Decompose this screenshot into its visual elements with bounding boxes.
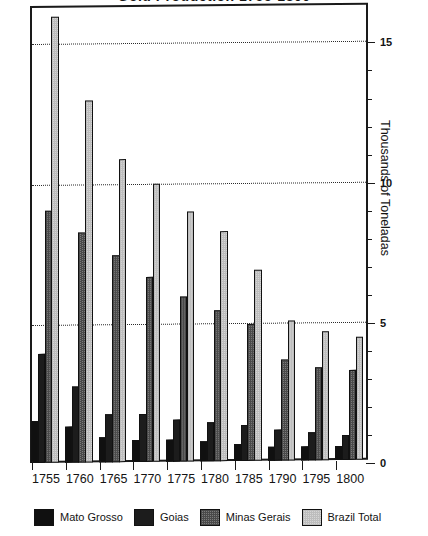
chart-legend: Mato GrossoGoiasMinas GeraisBrazil Total — [34, 505, 414, 529]
bar-group-1795 — [301, 3, 335, 460]
bar-1800-mato-grosso — [335, 446, 342, 460]
legend-label-mato: Mato Grosso — [60, 511, 123, 523]
legend-item-goias: Goias — [134, 509, 189, 526]
bar-1775-brazil-total — [187, 212, 194, 462]
bar-1755-mato-grosso — [31, 421, 38, 463]
bar-1755-minas-gerais — [45, 210, 52, 462]
y-tick-minor-6 — [366, 295, 372, 296]
bar-1795-minas-gerais — [315, 368, 322, 461]
bar-1790-mato-grosso — [268, 447, 275, 461]
y-tick-label-5: 5 — [380, 317, 386, 329]
y-tick-minor-9 — [366, 211, 372, 212]
bar-1785-minas-gerais — [247, 323, 254, 460]
bar-1765-goias — [105, 415, 112, 463]
bar-1760-goias — [72, 387, 79, 463]
y-tick-minor-1 — [366, 435, 372, 436]
y-tick-15 — [366, 42, 375, 43]
bar-1795-goias — [308, 432, 315, 460]
bar-1800-brazil-total — [356, 336, 363, 459]
y-tick-minor-13 — [366, 99, 372, 100]
legend-swatch-mato-icon — [34, 509, 54, 526]
x-tick-label-1755: 1755 — [32, 472, 60, 486]
bar-1775-goias — [173, 420, 180, 462]
bar-1785-goias — [241, 424, 248, 461]
legend-swatch-brazil-icon — [302, 509, 322, 526]
bar-1780-mato-grosso — [200, 442, 207, 462]
bar-1785-mato-grosso — [234, 444, 241, 461]
bar-group-1770 — [132, 5, 166, 462]
x-tick-label-1800: 1800 — [336, 472, 364, 486]
y-tick-minor-12 — [366, 127, 372, 128]
bar-group-1780 — [200, 4, 234, 461]
bar-1770-minas-gerais — [146, 277, 153, 462]
x-tick-1770 — [133, 461, 134, 470]
bar-group-1800 — [335, 3, 369, 460]
bar-1765-minas-gerais — [112, 255, 119, 463]
x-tick-label-1795: 1795 — [302, 472, 330, 486]
bar-1790-brazil-total — [288, 320, 295, 460]
bar-1755-goias — [38, 354, 45, 463]
chart-container: Gold Production 1755-1800 051015 Thousan… — [0, 0, 428, 536]
x-tick-label-1785: 1785 — [235, 472, 263, 486]
y-tick-minor-3 — [366, 379, 372, 380]
x-tick-label-1790: 1790 — [269, 472, 297, 486]
x-tick-1795 — [302, 461, 303, 470]
x-tick-1785 — [235, 461, 236, 470]
x-tick-label-1760: 1760 — [66, 472, 94, 486]
bar-group-1760 — [65, 5, 99, 462]
x-tick-1780 — [201, 461, 202, 470]
bar-1800-goias — [342, 435, 349, 460]
legend-item-brazil: Brazil Total — [302, 509, 382, 526]
bar-1780-minas-gerais — [214, 310, 221, 461]
x-tick-label-1775: 1775 — [167, 472, 195, 486]
x-axis: 1755176017651770177517801785179017951800 — [30, 461, 368, 495]
x-tick-1755 — [32, 461, 33, 470]
bar-group-1790 — [268, 3, 302, 460]
legend-swatch-goias-icon — [134, 509, 154, 526]
bar-1755-brazil-total — [51, 17, 58, 463]
bar-group-1755 — [31, 6, 65, 463]
bar-1790-minas-gerais — [281, 360, 288, 461]
y-tick-minor-2 — [366, 407, 372, 408]
bar-1765-brazil-total — [119, 159, 126, 462]
y-tick-minor-7 — [366, 267, 372, 268]
y-axis: 051015 — [366, 4, 428, 466]
bar-1795-brazil-total — [322, 331, 329, 460]
bar-group-1765 — [99, 5, 133, 462]
bar-1770-mato-grosso — [132, 440, 139, 462]
bar-1800-minas-gerais — [349, 370, 356, 460]
y-tick-minor-11 — [366, 155, 372, 156]
x-tick-1800 — [336, 461, 337, 470]
bar-1790-goias — [274, 430, 281, 461]
y-tick-minor-14 — [366, 70, 372, 71]
legend-label-minas: Minas Gerais — [226, 511, 291, 523]
bar-1795-mato-grosso — [301, 446, 308, 460]
bar-1770-goias — [139, 414, 146, 462]
bar-1770-brazil-total — [153, 184, 160, 462]
bar-1780-goias — [207, 422, 214, 461]
y-tick-label-15: 15 — [380, 36, 392, 48]
bar-group-1775 — [166, 4, 200, 461]
bar-1760-brazil-total — [85, 101, 92, 463]
bar-group-1785 — [234, 4, 268, 461]
bar-1775-mato-grosso — [166, 439, 173, 461]
legend-label-goias: Goias — [160, 511, 189, 523]
bars-layer — [30, 3, 368, 463]
bar-1765-mato-grosso — [99, 437, 106, 462]
bar-1775-minas-gerais — [180, 296, 187, 461]
bar-1785-brazil-total — [254, 270, 261, 461]
bar-1780-brazil-total — [220, 231, 227, 461]
x-tick-1765 — [100, 461, 101, 470]
x-tick-1790 — [269, 461, 270, 470]
y-tick-label-0: 0 — [380, 457, 386, 469]
x-tick-label-1780: 1780 — [201, 472, 229, 486]
y-tick-10 — [366, 183, 375, 184]
x-tick-label-1770: 1770 — [133, 472, 161, 486]
x-tick-label-1765: 1765 — [100, 472, 128, 486]
x-tick-1775 — [167, 461, 168, 470]
x-tick-1760 — [66, 461, 67, 470]
legend-label-brazil: Brazil Total — [328, 511, 382, 523]
y-axis-title: Thousands of Toneladas — [378, 120, 392, 256]
legend-item-mato: Mato Grosso — [34, 509, 123, 526]
legend-item-minas: Minas Gerais — [200, 509, 291, 526]
